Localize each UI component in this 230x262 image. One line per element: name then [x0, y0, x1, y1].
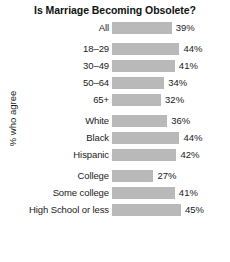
- bar-track: 44%: [112, 43, 230, 55]
- bar-category-label: Hispanic: [0, 149, 112, 161]
- bar-category-label: 50–64: [0, 77, 112, 89]
- bar-row: 30–4941%: [0, 60, 230, 72]
- bar-row: Black44%: [0, 132, 230, 144]
- bar: [112, 149, 176, 161]
- bar-value-label: 27%: [153, 170, 176, 182]
- bar-value-label: 41%: [175, 60, 198, 72]
- bar-value-label: 39%: [172, 22, 195, 34]
- bar-track: 41%: [112, 60, 230, 72]
- bar-track: 44%: [112, 132, 230, 144]
- bar-category-label: All: [0, 22, 112, 34]
- plot-area: All39%18–2944%30–4941%50–6434%65+32%Whit…: [0, 22, 230, 216]
- bar: [112, 187, 175, 199]
- bar-track: 36%: [112, 115, 230, 127]
- bar-track: 41%: [112, 187, 230, 199]
- bar-category-label: 65+: [0, 94, 112, 106]
- bar-value-label: 44%: [179, 132, 202, 144]
- bar: [112, 43, 179, 55]
- bar-value-label: 34%: [164, 77, 187, 89]
- bar-row: White36%: [0, 115, 230, 127]
- bar-value-label: 32%: [161, 94, 184, 106]
- bar-category-label: High School or less: [0, 204, 112, 216]
- bar-category-label: College: [0, 170, 112, 182]
- bar-value-label: 44%: [179, 43, 202, 55]
- bar-track: 32%: [112, 94, 230, 106]
- bar-track: 34%: [112, 77, 230, 89]
- bar-row: High School or less45%: [0, 204, 230, 216]
- bar-category-label: 30–49: [0, 60, 112, 72]
- bar-row: 18–2944%: [0, 43, 230, 55]
- bar-row: 50–6434%: [0, 77, 230, 89]
- bar: [112, 60, 175, 72]
- bar-group-education: College27%Some college41%High School or …: [0, 170, 230, 216]
- bar-track: 27%: [112, 170, 230, 182]
- bar-value-label: 42%: [176, 149, 199, 161]
- bar-group-race-ethnicity: White36%Black44%Hispanic42%: [0, 115, 230, 161]
- bar-track: 45%: [112, 204, 230, 216]
- bar: [112, 94, 161, 106]
- bar: [112, 115, 167, 127]
- bar-category-label: 18–29: [0, 43, 112, 55]
- bar-category-label: White: [0, 115, 112, 127]
- bar-category-label: Black: [0, 132, 112, 144]
- bar-value-label: 36%: [167, 115, 190, 127]
- bar-group-age: 18–2944%30–4941%50–6434%65+32%: [0, 43, 230, 106]
- bar: [112, 22, 172, 34]
- bar-category-label: Some college: [0, 187, 112, 199]
- bar: [112, 77, 164, 89]
- bar-group-overall: All39%: [0, 22, 230, 34]
- bar: [112, 170, 153, 182]
- bar-track: 42%: [112, 149, 230, 161]
- bar-row: All39%: [0, 22, 230, 34]
- bar-row: College27%: [0, 170, 230, 182]
- bar-row: Some college41%: [0, 187, 230, 199]
- bar: [112, 204, 181, 216]
- bar-value-label: 45%: [181, 204, 204, 216]
- bar: [112, 132, 179, 144]
- chart-title: Is Marriage Becoming Obsolete?: [0, 4, 230, 16]
- bar-track: 39%: [112, 22, 230, 34]
- bar-row: Hispanic42%: [0, 149, 230, 161]
- bar-value-label: 41%: [175, 187, 198, 199]
- bar-chart: Is Marriage Becoming Obsolete? % who agr…: [0, 0, 230, 262]
- bar-row: 65+32%: [0, 94, 230, 106]
